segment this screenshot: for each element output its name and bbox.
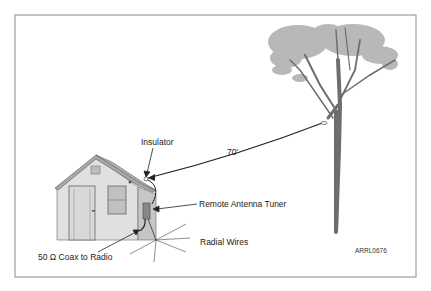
diagram-canvas: Insulator 70' Remote Antenna Tuner Radia… [0, 0, 431, 291]
figure-id-label: ARRL0676 [355, 247, 387, 254]
roof-anchor-icon [129, 181, 132, 184]
wire-length-label: 70' [227, 147, 238, 157]
coax-label: 50 Ω Coax to Radio [38, 252, 113, 262]
radial-wires-label: Radial Wires [200, 237, 248, 247]
house-icon [55, 155, 156, 240]
remote-tuner-label: Remote Antenna Tuner [199, 199, 287, 209]
wire-arrowhead-icon [148, 174, 155, 181]
tuner-callout-arrow [157, 204, 197, 209]
door-icon [69, 186, 95, 240]
antenna-diagram: Insulator 70' Remote Antenna Tuner Radia… [0, 0, 431, 291]
insulator-label: Insulator [141, 137, 174, 147]
vent-icon [91, 166, 100, 174]
tuner-box-icon [143, 203, 150, 219]
insulator-callout-arrow [147, 148, 153, 173]
tree-foliage-icon [268, 24, 398, 82]
tree-insulator-icon [321, 122, 327, 125]
